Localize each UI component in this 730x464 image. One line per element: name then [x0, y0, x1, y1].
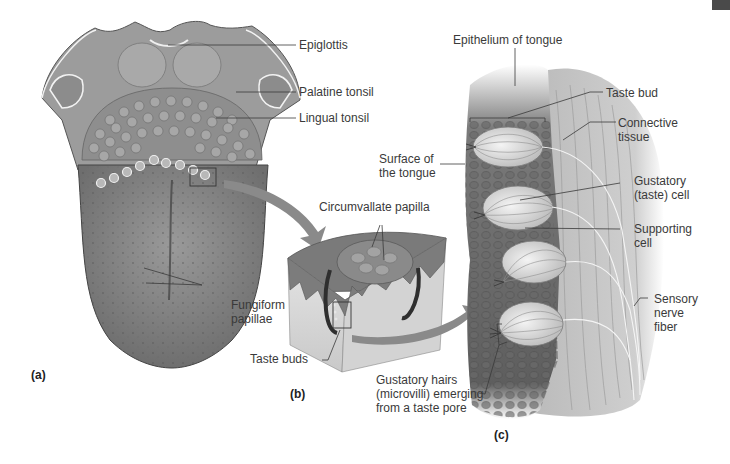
figure-artwork	[0, 0, 730, 464]
label-epithelium-of-tongue: Epithelium of tongue	[453, 33, 562, 47]
label-fungiform-papillae: Fungiform papillae	[231, 298, 285, 326]
label-connective-tissue: Connective tissue	[618, 116, 678, 144]
taste-anatomy-figure: Epiglottis Palatine tonsil Lingual tonsi…	[0, 0, 730, 464]
panel-label-b: (b)	[290, 387, 305, 401]
label-circumvallate-papilla: Circumvallate papilla	[319, 200, 430, 214]
label-lingual-tonsil: Lingual tonsil	[299, 111, 369, 125]
panel-label-c: (c)	[494, 428, 509, 442]
corner-page-tab	[712, 0, 730, 10]
circumvallate-block	[288, 232, 446, 372]
label-palatine-tonsil: Palatine tonsil	[299, 85, 374, 99]
label-surface-of-the-tongue: Surface of the tongue	[379, 152, 436, 180]
panel-label-a: (a)	[31, 368, 46, 382]
label-gustatory-hairs: Gustatory hairs (microvilli) emerging fr…	[376, 373, 483, 415]
label-epiglottis: Epiglottis	[299, 38, 348, 52]
label-gustatory-cell: Gustatory (taste) cell	[634, 174, 689, 202]
label-supporting-cell: Supporting cell	[634, 222, 692, 250]
label-taste-bud: Taste bud	[606, 86, 658, 100]
label-taste-buds: Taste buds	[250, 352, 308, 366]
label-sensory-nerve-fiber: Sensory nerve fiber	[654, 292, 698, 334]
